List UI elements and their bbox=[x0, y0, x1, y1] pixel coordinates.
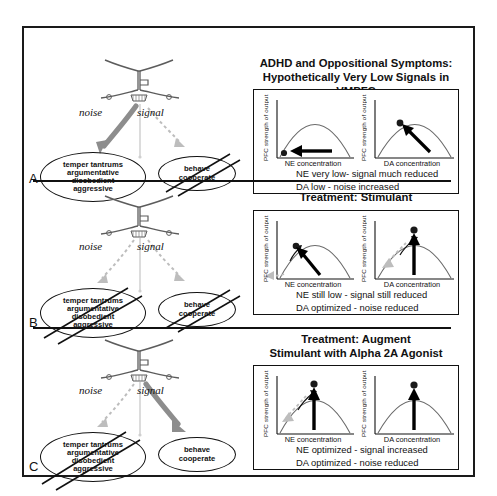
pos-line-2: cooperate bbox=[179, 455, 215, 463]
figure-canvas: A bbox=[0, 0, 497, 496]
chart-ne-c: PFC strength of output NE concentration bbox=[260, 372, 356, 444]
panel-b-caption-line2: DA optimized - noise reduced bbox=[296, 302, 427, 315]
chart-da-a-ylabel: PFC strength of output bbox=[360, 99, 367, 161]
signal-label-c: signal bbox=[137, 384, 164, 396]
positive-behaviors-ellipse-c: behave cooperate bbox=[158, 437, 236, 472]
panel-c-right-block: Treatment: Augment Stimulant with Alpha … bbox=[245, 332, 467, 474]
panel-c-caption: NE optimized - signal increased DA optim… bbox=[296, 444, 428, 469]
pyramidal-neuron-icon-a bbox=[95, 54, 185, 109]
signal-label-b: signal bbox=[137, 240, 164, 252]
panel-b-title-line1: Treatment: Stimulant bbox=[245, 190, 467, 204]
noise-label-c: noise bbox=[79, 384, 102, 396]
panel-c-caption-line1: NE optimized - signal increased bbox=[296, 444, 428, 457]
pyramidal-neuron-icon-c bbox=[95, 334, 185, 389]
panel-b-chart-box: PFC strength of output NE concentration bbox=[253, 210, 459, 315]
panel-a: A bbox=[0, 26, 497, 180]
signal-label-a: signal bbox=[137, 106, 164, 118]
chart-ne-b: PFC strength of output NE concentration bbox=[260, 217, 356, 289]
panel-c: C noise bbox=[0, 329, 497, 477]
panel-c-title-line1: Treatment: Augment bbox=[245, 332, 467, 346]
chart-ne-c-ylabel: PFC strength of output bbox=[262, 375, 269, 437]
panel-c-title-line2: Stimulant with Alpha 2A Agonist bbox=[245, 346, 467, 360]
neg-line-4: aggressive bbox=[63, 465, 123, 473]
panel-a-right-block: ADHD and Oppositional Symptoms: Hypothet… bbox=[245, 56, 467, 198]
panel-b-caption: NE still low - signal still reduced DA o… bbox=[296, 289, 427, 314]
pyramidal-neuron-icon-b bbox=[95, 190, 185, 245]
panel-a-title-line1: ADHD and Oppositional Symptoms: bbox=[245, 56, 467, 70]
chart-ne-c-xlabel: NE concentration bbox=[270, 435, 356, 444]
chart-da-b-ylabel: PFC strength of output bbox=[360, 220, 367, 282]
chart-ne-a-xlabel: NE concentration bbox=[270, 159, 356, 168]
negative-behaviors-ellipse-c: temper tantrums argumentative disobedien… bbox=[40, 432, 146, 482]
chart-ne-a-ylabel: PFC strength of output bbox=[262, 99, 269, 161]
chart-ne-a: PFC strength of output NE concentration bbox=[260, 96, 356, 168]
panel-b: B noise bbox=[0, 182, 497, 327]
chart-da-b: PFC strength of output DA concentration bbox=[358, 217, 456, 289]
chart-da-c-ylabel: PFC strength of output bbox=[360, 375, 367, 437]
chart-ne-b-xlabel: NE concentration bbox=[270, 280, 356, 289]
panel-c-caption-line2: DA optimized - noise reduced bbox=[296, 457, 428, 470]
chart-da-a: PFC strength of output DA concentration bbox=[358, 96, 456, 168]
panel-a-chart-box: PFC strength of output NE concentration … bbox=[253, 89, 459, 194]
panel-letter-c: C bbox=[29, 459, 38, 474]
panel-c-chart-box: PFC strength of output NE concentration … bbox=[253, 365, 459, 470]
pos-line-2: cooperate bbox=[179, 310, 215, 318]
panel-b-caption-line1: NE still low - signal still reduced bbox=[296, 289, 427, 302]
panel-b-title: Treatment: Stimulant bbox=[245, 190, 467, 204]
chart-da-c-xlabel: DA concentration bbox=[368, 435, 456, 444]
panel-c-title: Treatment: Augment Stimulant with Alpha … bbox=[245, 332, 467, 360]
chart-da-a-xlabel: DA concentration bbox=[368, 159, 456, 168]
panel-a-caption-line1: NE very low- signal much reduced bbox=[296, 168, 438, 181]
noise-label-b: noise bbox=[79, 240, 102, 252]
positive-behaviors-ellipse-b: behave cooperate bbox=[158, 292, 236, 327]
chart-ne-b-ylabel: PFC strength of output bbox=[262, 220, 269, 282]
noise-label-a: noise bbox=[79, 106, 102, 118]
panel-b-right-block: Treatment: Stimulant bbox=[245, 190, 467, 330]
chart-da-c: PFC strength of output DA concentration bbox=[358, 372, 456, 444]
chart-da-b-xlabel: DA concentration bbox=[368, 280, 456, 289]
